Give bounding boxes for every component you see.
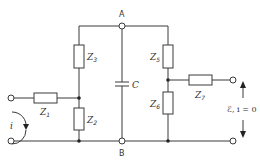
z1-impedance	[34, 93, 57, 103]
z1-label: Z1	[39, 107, 50, 118]
input-terminal-bottom	[8, 138, 14, 144]
node-b-terminal	[119, 138, 125, 144]
current-arrow-icon	[12, 112, 29, 144]
input-terminal-top	[8, 95, 14, 101]
output-branch	[168, 75, 230, 85]
z5-impedance	[163, 45, 173, 68]
output-terminal-top	[230, 77, 236, 83]
z6-label: Z6	[149, 99, 160, 110]
output-annotation: ℰ, i = 0	[227, 105, 257, 114]
left-column	[74, 45, 84, 143]
z5-label: Z5	[149, 52, 160, 63]
input-branch	[14, 93, 79, 103]
node-b-label: B	[119, 149, 125, 158]
capacitor-label: C	[132, 80, 139, 90]
z3-impedance	[74, 45, 84, 68]
output-terminal-bottom	[230, 138, 236, 144]
z6-impedance	[163, 92, 173, 114]
z7-label: Z7	[194, 90, 205, 101]
circuit-diagram: A B Z1 Z2 Z3 Z5 Z6 Z7 C i ℰ, i = 0	[0, 0, 260, 162]
right-column	[163, 45, 173, 143]
z3-label: Z3	[86, 52, 97, 63]
node-a-label: A	[119, 10, 125, 19]
current-label: i	[10, 121, 13, 131]
z2-impedance	[74, 108, 84, 130]
z2-label: Z2	[86, 115, 97, 126]
z7-impedance	[189, 75, 212, 85]
capacitor-c	[115, 29, 129, 138]
node-a-terminal	[119, 23, 125, 29]
